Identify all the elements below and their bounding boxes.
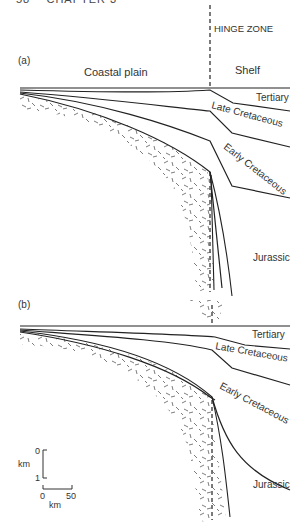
horizontal-scale-unit: km [49,500,61,510]
early-cretaceous-label-a: Early Cretaceous [222,141,289,197]
vertical-scale-unit: km [18,459,30,469]
cross-section-diagram: (a) HINGE ZONE Coastal plain Shelf Terti… [0,0,303,532]
basement-pattern-b-top [190,300,225,322]
shelf-label: Shelf [235,64,261,76]
vertical-scale-bottom: 1 [35,473,40,483]
late-cretaceous-label-b: Late Cretaceous [215,340,289,364]
late-cretaceous-label-a: Late Cretaceous [210,99,284,129]
horizontal-scale-right: 50 [66,491,76,501]
vertical-scale-top: 0 [35,446,40,456]
basement-pattern [20,95,214,292]
vertical-scale-bar [43,450,47,478]
hinge-zone-label: HINGE ZONE [214,23,273,34]
horizontal-scale-left: 0 [40,491,45,501]
panel-b-label: (b) [18,299,30,310]
early-cretaceous-label-b: Early Cretaceous [218,380,291,426]
panel-a: (a) HINGE ZONE Coastal plain Shelf Terti… [18,5,290,296]
scale-bar: 0 1 km 0 50 km [18,446,76,510]
jurassic-label-a: Jurassic [253,252,290,263]
jurassic-label-b: Jurassic [253,479,290,490]
tertiary-label-a: Tertiary [256,92,289,103]
coastal-plain-label: Coastal plain [84,66,148,78]
tertiary-label-b: Tertiary [252,329,285,340]
basement-pattern-b [20,332,226,522]
panel-a-label: (a) [18,55,30,66]
horizontal-scale-bar [43,485,72,489]
